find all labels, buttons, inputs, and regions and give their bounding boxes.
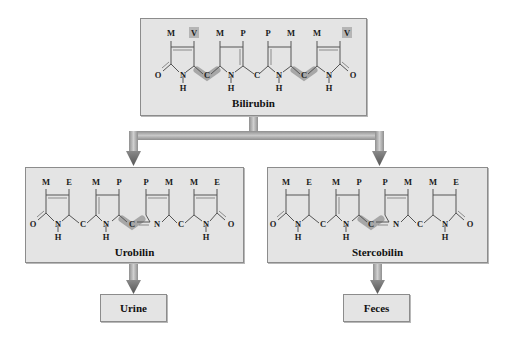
urine-node: Urine xyxy=(100,294,167,322)
arrow-to-urine-head xyxy=(126,280,141,294)
svg-text:E: E xyxy=(66,177,72,187)
svg-text:V: V xyxy=(344,28,351,38)
svg-text:N: N xyxy=(180,70,187,80)
svg-text:M: M xyxy=(165,177,173,187)
svg-text:M: M xyxy=(404,177,412,187)
svg-text:N: N xyxy=(228,70,235,80)
svg-text:C: C xyxy=(320,219,326,229)
svg-text:H: H xyxy=(295,232,302,242)
svg-text:E: E xyxy=(453,177,459,187)
svg-text:P: P xyxy=(240,28,245,38)
bilirubin-node: M V M P P M M V O N H C N H C N H C N H … xyxy=(140,18,367,116)
svg-text:P: P xyxy=(116,177,121,187)
svg-text:O: O xyxy=(30,219,37,229)
split-bar xyxy=(129,131,384,140)
arrow-to-stercobilin-shaft xyxy=(375,131,384,153)
svg-text:N: N xyxy=(154,219,161,229)
arrow-to-stercobilin-head xyxy=(372,151,387,166)
svg-text:M: M xyxy=(92,177,100,187)
svg-text:E: E xyxy=(214,177,220,187)
svg-text:P: P xyxy=(143,177,148,187)
svg-text:N: N xyxy=(393,219,400,229)
feces-label: Feces xyxy=(344,302,409,314)
stercobilin-node: M E M P P M M E O N H C N H C N C N H O … xyxy=(267,167,488,263)
svg-text:E: E xyxy=(306,177,312,187)
svg-text:H: H xyxy=(103,232,110,242)
svg-text:V: V xyxy=(191,28,198,38)
arrow-to-feces-shaft xyxy=(373,262,382,282)
arrow-to-urobilin-shaft xyxy=(129,131,138,153)
svg-text:M: M xyxy=(216,28,224,38)
svg-text:M: M xyxy=(313,28,321,38)
svg-text:N: N xyxy=(276,70,283,80)
svg-text:P: P xyxy=(265,28,270,38)
svg-text:H: H xyxy=(442,232,449,242)
svg-text:C: C xyxy=(204,70,210,80)
svg-text:H: H xyxy=(276,83,283,93)
svg-text:C: C xyxy=(368,219,374,229)
urobilin-node: M E M P P M M E O N H C N H C N C N H O … xyxy=(25,167,244,263)
svg-text:H: H xyxy=(326,83,333,93)
svg-text:H: H xyxy=(180,83,187,93)
svg-text:M: M xyxy=(429,177,437,187)
svg-text:M: M xyxy=(287,28,295,38)
stercobilin-label: Stercobilin xyxy=(268,246,487,258)
bilirubin-label: Bilirubin xyxy=(141,97,366,109)
svg-text:N: N xyxy=(295,219,302,229)
feces-node: Feces xyxy=(343,294,410,322)
svg-text:O: O xyxy=(467,219,474,229)
svg-text:M: M xyxy=(282,177,290,187)
svg-text:O: O xyxy=(228,219,235,229)
svg-text:O: O xyxy=(270,219,277,229)
svg-text:C: C xyxy=(80,219,86,229)
svg-text:O: O xyxy=(155,70,162,80)
svg-text:C: C xyxy=(254,70,260,80)
svg-text:N: N xyxy=(203,219,210,229)
svg-text:H: H xyxy=(228,83,235,93)
arrow-to-urine-shaft xyxy=(129,262,138,282)
svg-text:C: C xyxy=(129,219,135,229)
svg-text:N: N xyxy=(343,219,350,229)
svg-text:M: M xyxy=(190,177,198,187)
arrow-to-feces-head xyxy=(370,280,385,294)
svg-text:M: M xyxy=(42,177,50,187)
arrow-to-urobilin-head xyxy=(126,151,141,166)
svg-text:P: P xyxy=(356,177,361,187)
svg-text:H: H xyxy=(343,232,350,242)
svg-text:N: N xyxy=(103,219,110,229)
svg-text:C: C xyxy=(417,219,423,229)
svg-text:O: O xyxy=(350,70,357,80)
svg-text:M: M xyxy=(167,28,175,38)
bilirubin-stem xyxy=(249,115,258,133)
urine-label: Urine xyxy=(101,302,166,314)
svg-text:N: N xyxy=(326,70,333,80)
svg-text:H: H xyxy=(203,232,210,242)
svg-text:N: N xyxy=(442,219,449,229)
svg-text:H: H xyxy=(55,232,62,242)
svg-text:C: C xyxy=(301,70,307,80)
svg-text:N: N xyxy=(55,219,62,229)
svg-text:P: P xyxy=(382,177,387,187)
svg-text:M: M xyxy=(332,177,340,187)
urobilin-label: Urobilin xyxy=(26,246,243,258)
svg-text:C: C xyxy=(178,219,184,229)
